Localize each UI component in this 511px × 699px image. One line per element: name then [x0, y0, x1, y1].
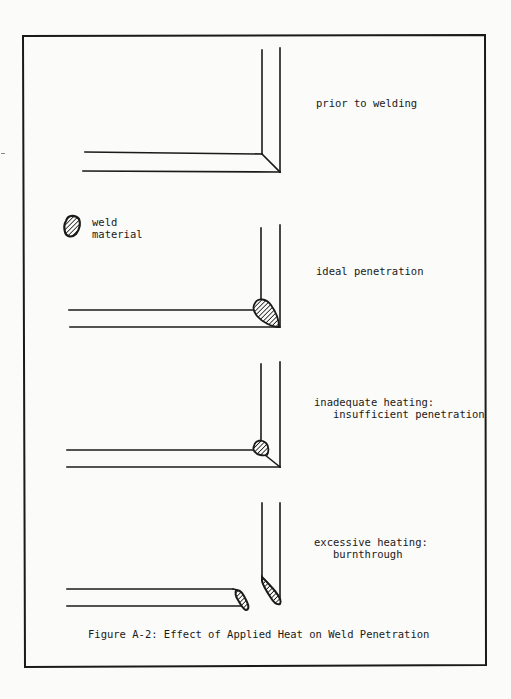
label-prior-to-welding: prior to welding — [316, 97, 417, 109]
weld-bead-ideal — [254, 299, 279, 327]
label-insufficient-penetration: insufficient penetration — [314, 408, 485, 420]
label-burnthrough: burnthrough — [314, 548, 403, 560]
legend-label-line2: material — [92, 228, 143, 240]
burnthrough-droplet-right — [262, 577, 281, 604]
hatched-weld-blob-icon — [64, 216, 79, 237]
diagram-prior-to-welding — [83, 48, 280, 172]
diagram-ideal-penetration — [69, 225, 280, 327]
diagram-excessive-heating — [67, 503, 280, 606]
weld-bead-insufficient — [253, 441, 268, 456]
label-ideal-penetration: ideal penetration — [316, 265, 423, 277]
burnthrough-droplet-left — [236, 590, 249, 610]
label-inadequate-heating: inadequate heating: — [314, 396, 434, 408]
figure-frame — [23, 35, 486, 667]
weld-penetration-figure — [0, 0, 511, 699]
legend-label-line1: weld — [92, 216, 117, 228]
figure-caption: Figure A-2: Effect of Applied Heat on We… — [88, 628, 429, 640]
diagram-inadequate-heating — [67, 362, 280, 467]
label-excessive-heating: excessive heating: — [314, 536, 428, 548]
